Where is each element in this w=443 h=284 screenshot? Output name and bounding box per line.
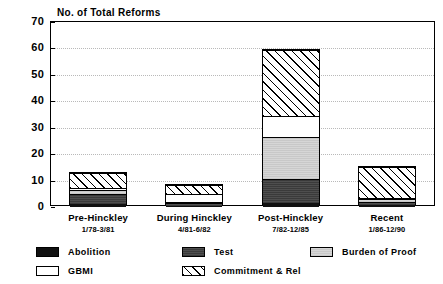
- abolition-swatch: [36, 247, 59, 257]
- bar-segment-burden-of-proof: [263, 137, 319, 179]
- legend-item-label: Commitment & Rel: [214, 266, 301, 276]
- y-tick-mark: [51, 154, 55, 155]
- commitment-and-rel-swatch: [182, 266, 205, 276]
- chart-legend: AbolitionTestBurden of ProofGBMICommitme…: [0, 245, 443, 284]
- x-axis-category-range: 4/81-6/82: [146, 225, 242, 234]
- x-axis-category-range: 7/82-12/85: [243, 225, 339, 234]
- y-tick-label: 10: [0, 174, 44, 186]
- legend-item-label: Abolition: [68, 247, 111, 257]
- legend-item-label: Burden of Proof: [342, 247, 417, 257]
- x-axis-category: Post-Hinckley7/82-12/85: [243, 212, 339, 234]
- bar-segment-gbmi: [359, 198, 415, 199]
- legend-item-label: GBMI: [68, 266, 93, 276]
- legend-item-test[interactable]: Test: [182, 247, 233, 257]
- bar-segment-commitment-and-rel: [166, 185, 222, 194]
- bar-segment-gbmi: [70, 188, 126, 189]
- bar-post-hinckley: [262, 49, 320, 206]
- y-tick-label: 30: [0, 121, 44, 133]
- bar-segment-test: [166, 203, 222, 206]
- x-axis-category-name: During Hinckley: [146, 212, 242, 223]
- bar-segment-commitment-and-rel: [359, 167, 415, 197]
- bar-recent: [358, 166, 416, 206]
- bar-segment-gbmi: [263, 116, 319, 137]
- bar-segment-abolition: [263, 203, 319, 207]
- y-tick-mark: [51, 181, 55, 182]
- y-tick-mark: [51, 207, 55, 208]
- y-tick-label: 20: [0, 147, 44, 159]
- bar-segment-commitment-and-rel: [263, 50, 319, 116]
- bar-segment-burden-of-proof: [70, 190, 126, 194]
- bar-pre-hinckley: [69, 172, 127, 206]
- x-axis-category-range: 1/86-12/90: [339, 225, 435, 234]
- y-tick-mark: [51, 128, 55, 129]
- bar-segment-test: [70, 194, 126, 205]
- y-tick-mark: [51, 101, 55, 102]
- x-axis-category-range: 1/78-3/81: [50, 225, 146, 234]
- bar-during-hinckley: [165, 184, 223, 206]
- chart-title: No. of Total Reforms: [57, 7, 161, 18]
- x-axis-category: During Hinckley4/81-6/82: [146, 212, 242, 234]
- y-tick-label: 40: [0, 94, 44, 106]
- x-axis-category-name: Recent: [339, 212, 435, 223]
- reforms-bar-chart: No. of Total Reforms 706050403020100 Pre…: [0, 0, 443, 284]
- x-axis-category-name: Pre-Hinckley: [50, 212, 146, 223]
- bar-segment-test: [263, 179, 319, 203]
- bar-segment-burden-of-proof: [166, 202, 222, 203]
- legend-item-abolition[interactable]: Abolition: [36, 247, 111, 257]
- y-tick-mark: [51, 48, 55, 49]
- legend-item-burden-of-proof[interactable]: Burden of Proof: [310, 247, 417, 257]
- y-tick-label: 0: [0, 200, 44, 212]
- bar-segment-burden-of-proof: [359, 199, 415, 202]
- gbmi-swatch: [36, 266, 59, 276]
- test-swatch: [182, 247, 205, 257]
- legend-item-label: Test: [214, 247, 233, 257]
- legend-item-gbmi[interactable]: GBMI: [36, 266, 93, 276]
- y-tick-mark: [51, 22, 55, 23]
- gridline: [51, 48, 434, 49]
- bar-segment-abolition: [166, 206, 222, 207]
- bar-segment-commitment-and-rel: [70, 173, 126, 189]
- bar-segment-abolition: [70, 204, 126, 207]
- y-tick-label: 60: [0, 41, 44, 53]
- gridline: [51, 75, 434, 76]
- bar-segment-abolition: [359, 205, 415, 207]
- y-tick-label: 50: [0, 68, 44, 80]
- x-axis-category-name: Post-Hinckley: [243, 212, 339, 223]
- bar-segment-gbmi: [166, 194, 222, 202]
- bar-segment-test: [359, 202, 415, 205]
- legend-item-commitment-and-rel[interactable]: Commitment & Rel: [182, 266, 301, 276]
- y-tick-mark: [51, 75, 55, 76]
- y-tick-label: 70: [0, 15, 44, 27]
- x-axis-category: Pre-Hinckley1/78-3/81: [50, 212, 146, 234]
- gridline: [51, 101, 434, 102]
- gridline: [51, 154, 434, 155]
- gridline: [51, 128, 434, 129]
- x-axis-category: Recent1/86-12/90: [339, 212, 435, 234]
- burden-of-proof-swatch: [310, 247, 333, 257]
